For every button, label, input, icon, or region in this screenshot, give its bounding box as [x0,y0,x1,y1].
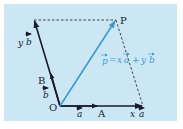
svg-text:a: a [77,109,82,119]
svg-text:+: + [132,55,140,65]
svg-text:p: p [102,56,108,66]
svg-text:a: a [124,55,129,65]
point-P-label: P [120,15,127,26]
svg-text:b: b [26,37,32,47]
vec-a-label: a [76,108,82,119]
svg-text:y: y [17,38,24,48]
svg-text:x: x [130,109,135,119]
svg-text:=: = [109,55,117,65]
svg-text:y: y [140,55,147,65]
vec-b-label: b [42,88,49,100]
point-B-label: B [38,75,45,86]
svg-text:x: x [117,55,122,65]
svg-text:a: a [139,109,144,119]
vector-decomposition-diagram: O A B P a b y b x a p = [0,0,183,129]
point-O-label: O [49,102,57,113]
svg-text:b: b [149,55,155,65]
point-A-label: A [97,108,106,119]
svg-text:b: b [43,90,49,100]
